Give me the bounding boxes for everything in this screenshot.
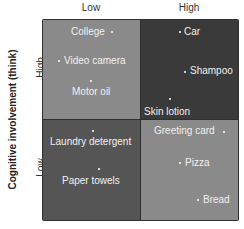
- item-greeting-card: Greeting card: [154, 125, 215, 136]
- item-shampoo: Shampoo: [190, 65, 233, 76]
- point-greeting-card: [223, 131, 225, 133]
- quadrant-top-left: College Video camera Motor oil: [43, 20, 140, 119]
- point-video-camera: [58, 60, 60, 62]
- item-motor-oil: Motor oil: [72, 86, 110, 97]
- column-label-low: Low: [42, 2, 140, 13]
- point-pizza: [179, 162, 181, 164]
- point-paper-towels: [98, 168, 100, 170]
- item-bread: Bread: [203, 194, 230, 205]
- point-laundry-detergent: [92, 130, 94, 132]
- point-bread: [197, 199, 199, 201]
- point-skin-lotion: [169, 98, 171, 100]
- item-laundry-detergent: Laundry detergent: [50, 136, 131, 147]
- axis-title: Cognitive involvement (think): [7, 20, 18, 220]
- item-college: College: [71, 26, 105, 37]
- item-car: Car: [184, 26, 200, 37]
- quadrant-bottom-right: Greeting card Pizza Bread: [141, 120, 238, 220]
- item-video-camera: Video camera: [64, 55, 126, 66]
- point-college: [111, 31, 113, 33]
- matrix-grid: College Video camera Motor oil Car Shamp…: [42, 19, 239, 221]
- quadrant-bottom-left: Laundry detergent Paper towels: [43, 120, 140, 220]
- item-paper-towels: Paper towels: [62, 175, 120, 186]
- item-pizza: Pizza: [185, 157, 209, 168]
- item-skin-lotion: Skin lotion: [144, 106, 190, 117]
- point-motor-oil: [90, 80, 92, 82]
- point-shampoo: [184, 71, 186, 73]
- quadrant-top-right: Car Shampoo Skin lotion: [141, 20, 238, 119]
- point-car: [179, 31, 181, 33]
- column-label-high: High: [140, 2, 238, 13]
